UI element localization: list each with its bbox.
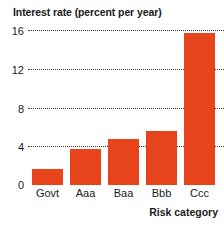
bar-bbb bbox=[146, 131, 177, 185]
bar-chart-figure: Interest rate (percent per year) 16 12 8… bbox=[0, 0, 224, 227]
bar-aaa bbox=[70, 149, 101, 185]
y-axis-tick-12: 12 bbox=[12, 64, 24, 75]
y-axis-tick-4: 4 bbox=[18, 142, 24, 153]
plot-area: 16 12 8 4 0 bbox=[28, 28, 224, 185]
y-axis-tick-8: 8 bbox=[18, 103, 24, 114]
x-axis-tick-ccc: Ccc bbox=[178, 187, 222, 199]
bar-ccc bbox=[184, 33, 215, 185]
bar-baa bbox=[108, 139, 139, 186]
bar-govt bbox=[32, 169, 63, 186]
chart-title: Interest rate (percent per year) bbox=[13, 6, 162, 18]
bars-layer bbox=[28, 30, 224, 185]
x-axis-tick-labels: Govt Aaa Baa Bbb Ccc bbox=[28, 187, 224, 203]
x-axis-title: Risk category bbox=[149, 206, 218, 218]
y-axis-tick-0: 0 bbox=[18, 180, 24, 191]
y-axis-tick-16: 16 bbox=[12, 26, 24, 37]
